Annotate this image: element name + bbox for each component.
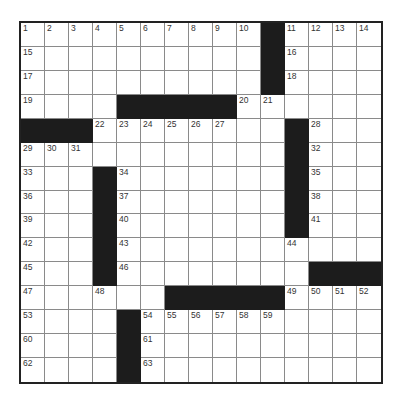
grid-cell[interactable] bbox=[333, 310, 357, 334]
grid-cell[interactable]: 20 bbox=[237, 95, 261, 119]
grid-cell[interactable]: 41 bbox=[309, 214, 333, 238]
grid-cell[interactable] bbox=[285, 310, 309, 334]
grid-cell[interactable]: 33 bbox=[21, 167, 45, 191]
grid-cell[interactable]: 1 bbox=[21, 23, 45, 47]
grid-cell[interactable]: 8 bbox=[189, 23, 213, 47]
grid-cell[interactable] bbox=[309, 310, 333, 334]
grid-cell[interactable]: 3 bbox=[69, 23, 93, 47]
grid-cell[interactable] bbox=[357, 191, 381, 215]
grid-cell[interactable] bbox=[333, 119, 357, 143]
grid-cell[interactable]: 2 bbox=[45, 23, 69, 47]
grid-cell[interactable] bbox=[45, 334, 69, 358]
grid-cell[interactable]: 19 bbox=[21, 95, 45, 119]
grid-cell[interactable]: 54 bbox=[141, 310, 165, 334]
grid-cell[interactable]: 5 bbox=[117, 23, 141, 47]
grid-cell[interactable] bbox=[45, 47, 69, 71]
grid-cell[interactable] bbox=[357, 238, 381, 262]
grid-cell[interactable] bbox=[141, 286, 165, 310]
grid-cell[interactable] bbox=[357, 95, 381, 119]
grid-cell[interactable]: 53 bbox=[21, 310, 45, 334]
grid-cell[interactable] bbox=[141, 214, 165, 238]
grid-cell[interactable] bbox=[357, 167, 381, 191]
grid-cell[interactable] bbox=[69, 167, 93, 191]
grid-cell[interactable]: 37 bbox=[117, 191, 141, 215]
grid-cell[interactable]: 63 bbox=[141, 358, 165, 382]
grid-cell[interactable] bbox=[357, 358, 381, 382]
grid-cell[interactable] bbox=[261, 119, 285, 143]
grid-cell[interactable] bbox=[213, 358, 237, 382]
grid-cell[interactable]: 31 bbox=[69, 143, 93, 167]
grid-cell[interactable]: 22 bbox=[93, 119, 117, 143]
grid-cell[interactable]: 38 bbox=[309, 191, 333, 215]
grid-cell[interactable]: 60 bbox=[21, 334, 45, 358]
grid-cell[interactable] bbox=[165, 167, 189, 191]
grid-cell[interactable]: 57 bbox=[213, 310, 237, 334]
grid-cell[interactable]: 61 bbox=[141, 334, 165, 358]
grid-cell[interactable] bbox=[333, 358, 357, 382]
grid-cell[interactable] bbox=[69, 47, 93, 71]
grid-cell[interactable] bbox=[93, 143, 117, 167]
grid-cell[interactable] bbox=[357, 47, 381, 71]
grid-cell[interactable] bbox=[189, 167, 213, 191]
grid-cell[interactable]: 47 bbox=[21, 286, 45, 310]
grid-cell[interactable] bbox=[261, 191, 285, 215]
grid-cell[interactable] bbox=[45, 71, 69, 95]
grid-cell[interactable]: 42 bbox=[21, 238, 45, 262]
grid-cell[interactable] bbox=[261, 358, 285, 382]
grid-cell[interactable] bbox=[141, 71, 165, 95]
grid-cell[interactable] bbox=[237, 238, 261, 262]
grid-cell[interactable]: 28 bbox=[309, 119, 333, 143]
grid-cell[interactable] bbox=[213, 334, 237, 358]
grid-cell[interactable]: 30 bbox=[45, 143, 69, 167]
grid-cell[interactable]: 59 bbox=[261, 310, 285, 334]
grid-cell[interactable] bbox=[69, 214, 93, 238]
grid-cell[interactable]: 17 bbox=[21, 71, 45, 95]
grid-cell[interactable]: 4 bbox=[93, 23, 117, 47]
grid-cell[interactable] bbox=[141, 191, 165, 215]
grid-cell[interactable] bbox=[45, 167, 69, 191]
grid-cell[interactable] bbox=[261, 143, 285, 167]
grid-cell[interactable] bbox=[93, 95, 117, 119]
grid-cell[interactable] bbox=[93, 310, 117, 334]
grid-cell[interactable] bbox=[285, 334, 309, 358]
grid-cell[interactable]: 29 bbox=[21, 143, 45, 167]
grid-cell[interactable] bbox=[357, 214, 381, 238]
grid-cell[interactable] bbox=[45, 95, 69, 119]
grid-cell[interactable] bbox=[237, 167, 261, 191]
grid-cell[interactable] bbox=[117, 286, 141, 310]
grid-cell[interactable]: 46 bbox=[117, 262, 141, 286]
grid-cell[interactable] bbox=[333, 143, 357, 167]
grid-cell[interactable]: 36 bbox=[21, 191, 45, 215]
grid-cell[interactable] bbox=[141, 167, 165, 191]
grid-cell[interactable] bbox=[189, 191, 213, 215]
grid-cell[interactable] bbox=[189, 358, 213, 382]
grid-cell[interactable] bbox=[117, 71, 141, 95]
grid-cell[interactable] bbox=[165, 238, 189, 262]
grid-cell[interactable] bbox=[93, 334, 117, 358]
grid-cell[interactable] bbox=[189, 214, 213, 238]
grid-cell[interactable] bbox=[309, 358, 333, 382]
grid-cell[interactable]: 50 bbox=[309, 286, 333, 310]
grid-cell[interactable]: 51 bbox=[333, 286, 357, 310]
grid-cell[interactable] bbox=[69, 310, 93, 334]
grid-cell[interactable]: 25 bbox=[165, 119, 189, 143]
grid-cell[interactable] bbox=[237, 191, 261, 215]
grid-cell[interactable] bbox=[357, 143, 381, 167]
grid-cell[interactable] bbox=[45, 191, 69, 215]
grid-cell[interactable] bbox=[333, 334, 357, 358]
grid-cell[interactable] bbox=[189, 143, 213, 167]
grid-cell[interactable] bbox=[333, 47, 357, 71]
grid-cell[interactable] bbox=[93, 358, 117, 382]
grid-cell[interactable] bbox=[165, 191, 189, 215]
grid-cell[interactable] bbox=[261, 334, 285, 358]
grid-cell[interactable]: 9 bbox=[213, 23, 237, 47]
grid-cell[interactable] bbox=[141, 262, 165, 286]
grid-cell[interactable]: 55 bbox=[165, 310, 189, 334]
grid-cell[interactable] bbox=[237, 143, 261, 167]
grid-cell[interactable] bbox=[69, 238, 93, 262]
grid-cell[interactable]: 21 bbox=[261, 95, 285, 119]
grid-cell[interactable]: 43 bbox=[117, 238, 141, 262]
grid-cell[interactable]: 6 bbox=[141, 23, 165, 47]
grid-cell[interactable]: 56 bbox=[189, 310, 213, 334]
grid-cell[interactable]: 24 bbox=[141, 119, 165, 143]
